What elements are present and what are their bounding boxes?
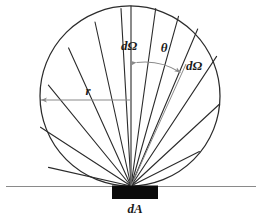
solid-angle-diagram: dΩ dΩ θ r dA	[0, 0, 263, 217]
ray-bundle	[41, 6, 220, 186]
ray	[131, 152, 199, 186]
area-element-rect	[112, 186, 158, 200]
label-solid-angle-right: dΩ	[186, 58, 203, 73]
theta-arc	[137, 62, 181, 73]
label-area-element: dA	[127, 201, 143, 216]
label-solid-angle-left: dΩ	[121, 38, 138, 53]
ray	[131, 16, 179, 186]
ray	[131, 56, 217, 186]
ray	[121, 9, 131, 186]
diagram-canvas: dΩ dΩ θ r dA	[0, 0, 263, 217]
label-theta: θ	[161, 40, 168, 55]
